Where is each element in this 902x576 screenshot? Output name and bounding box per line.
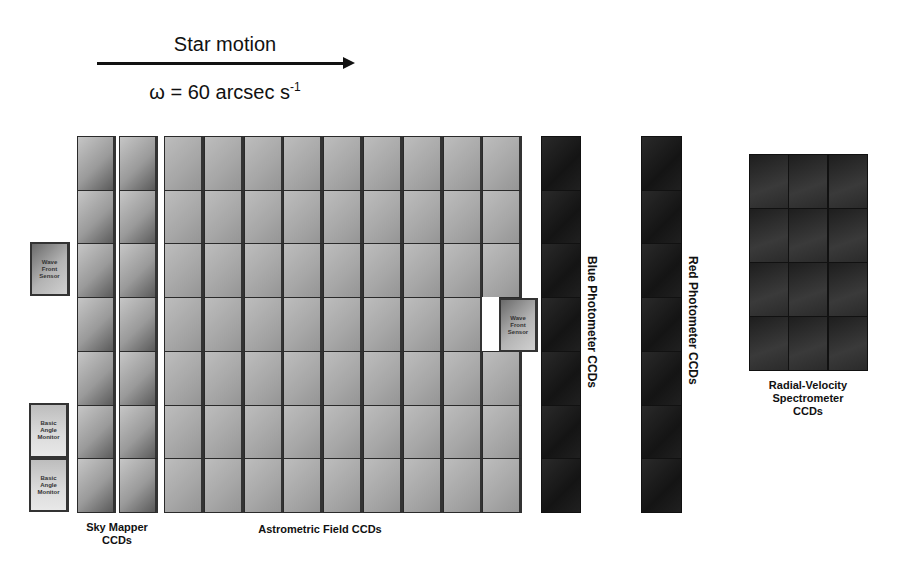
rvs-ccd xyxy=(749,208,789,263)
astrometric-ccd xyxy=(204,190,244,245)
astrometric-ccd xyxy=(164,136,204,191)
wave-front-sensor-left: WaveFrontSensor xyxy=(30,242,70,296)
astrometric-ccd xyxy=(244,458,284,513)
astrometric-ccd xyxy=(244,136,284,191)
astrometric-ccd xyxy=(283,458,323,513)
red-photometer-ccd xyxy=(641,297,682,352)
astrometric-ccd xyxy=(403,297,443,352)
astrometric-ccd xyxy=(482,190,522,245)
astrometric-ccd xyxy=(204,351,244,406)
astrometric-ccd xyxy=(244,351,284,406)
bam-label: Angle xyxy=(40,482,57,488)
ccd-gap xyxy=(482,297,499,352)
astrometric-ccd xyxy=(323,243,363,298)
basic-angle-monitor-bottom: BasicAngleMonitor xyxy=(29,458,69,512)
astrometric-ccd xyxy=(403,405,443,460)
astrometric-field-label: Astrometric Field CCDs xyxy=(220,523,420,536)
rvs-label: Radial-VelocitySpectrometerCCDs xyxy=(748,379,868,418)
sky-mapper-ccd xyxy=(77,136,116,191)
astrometric-ccd xyxy=(482,405,522,460)
rvs-ccd xyxy=(749,316,789,371)
bam-label: Basic xyxy=(40,420,56,426)
scan-rate-exponent: -1 xyxy=(290,80,301,94)
astrometric-ccd xyxy=(363,243,403,298)
astrometric-ccd xyxy=(323,351,363,406)
blue-photometer-ccd xyxy=(541,351,581,406)
rvs-ccd xyxy=(788,316,828,371)
rvs-ccd xyxy=(788,208,828,263)
red-photometer-ccd xyxy=(641,243,682,298)
astrometric-ccd xyxy=(164,243,204,298)
rvs-ccd xyxy=(828,316,868,371)
scan-rate-text: ω = 60 arcsec s xyxy=(149,81,290,103)
sky-mapper-ccd xyxy=(119,351,158,406)
sky-mapper-ccd xyxy=(119,297,158,352)
astrometric-ccd xyxy=(443,351,483,406)
astrometric-ccd xyxy=(443,136,483,191)
astrometric-ccd xyxy=(164,405,204,460)
astrometric-ccd xyxy=(403,136,443,191)
rvs-ccd xyxy=(749,262,789,317)
label-line: CCDs xyxy=(793,405,823,417)
astrometric-ccd xyxy=(363,297,403,352)
astrometric-ccd xyxy=(403,190,443,245)
astrometric-ccd xyxy=(363,190,403,245)
sky-mapper-ccd xyxy=(119,136,158,191)
arrow-shaft xyxy=(97,62,347,65)
astrometric-ccd xyxy=(283,190,323,245)
astrometric-ccd xyxy=(443,190,483,245)
label-line: Radial-Velocity xyxy=(769,379,847,391)
astrometric-ccd xyxy=(283,297,323,352)
astrometric-ccd xyxy=(283,136,323,191)
wfs-label: Sensor xyxy=(508,329,528,335)
astrometric-ccd xyxy=(323,190,363,245)
wfs-label: Sensor xyxy=(39,273,59,279)
sky-mapper-ccd xyxy=(77,243,116,298)
astrometric-ccd xyxy=(204,297,244,352)
label-line: Spectrometer xyxy=(773,392,844,404)
wfs-label: Front xyxy=(510,322,525,328)
astrometric-ccd xyxy=(363,405,403,460)
astrometric-ccd xyxy=(283,405,323,460)
astrometric-ccd xyxy=(244,297,284,352)
arrow-right-icon xyxy=(343,57,355,69)
astrometric-ccd xyxy=(283,243,323,298)
astrometric-ccd xyxy=(204,405,244,460)
astrometric-ccd xyxy=(323,297,363,352)
astrometric-ccd xyxy=(482,136,522,191)
sky-mapper-ccd xyxy=(119,405,158,460)
wfs-label: Wave xyxy=(42,259,57,265)
astrometric-ccd xyxy=(204,458,244,513)
bam-label: Monitor xyxy=(38,434,60,440)
rvs-ccd xyxy=(788,262,828,317)
astrometric-ccd xyxy=(403,351,443,406)
sky-mapper-ccd xyxy=(119,190,158,245)
sky-mapper-ccd xyxy=(119,458,158,513)
astrometric-ccd xyxy=(204,243,244,298)
bam-label: Angle xyxy=(40,427,57,433)
astrometric-ccd xyxy=(244,405,284,460)
blue-photometer-label: Blue Photometer CCDs xyxy=(585,256,599,388)
wfs-label: Wave xyxy=(510,315,525,321)
astrometric-ccd xyxy=(482,458,522,513)
red-photometer-ccd xyxy=(641,405,682,460)
astrometric-ccd xyxy=(403,458,443,513)
astrometric-ccd xyxy=(443,458,483,513)
blue-photometer-ccd xyxy=(541,190,581,245)
sky-mapper-ccd xyxy=(77,405,116,460)
astrometric-ccd xyxy=(164,458,204,513)
astrometric-ccd xyxy=(443,243,483,298)
bam-label: Basic xyxy=(40,475,56,481)
astrometric-ccd xyxy=(164,297,204,352)
red-photometer-ccd xyxy=(641,351,682,406)
sky-mapper-ccd xyxy=(119,243,158,298)
astrometric-ccd xyxy=(204,136,244,191)
basic-angle-monitor-top: BasicAngleMonitor xyxy=(29,403,69,458)
rvs-ccd xyxy=(828,208,868,263)
rvs-ccd xyxy=(828,262,868,317)
blue-photometer-ccd xyxy=(541,458,581,513)
rvs-ccd xyxy=(828,154,868,209)
red-photometer-label: Red Photometer CCDs xyxy=(686,256,700,385)
label-line: CCDs xyxy=(102,534,132,546)
star-motion-title: Star motion xyxy=(100,33,350,56)
